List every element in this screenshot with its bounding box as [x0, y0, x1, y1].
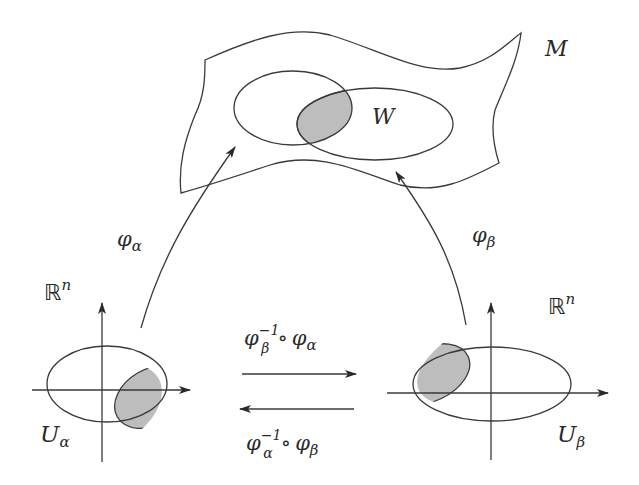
left-chart: ℝn Uα: [32, 276, 201, 462]
u-alpha-label: Uα: [40, 421, 70, 451]
phi-beta-label: φβ: [472, 223, 496, 251]
right-chart: ℝn Uβ: [381, 290, 608, 460]
phi-alpha-arrow: [141, 147, 235, 328]
left-overlap-image: [103, 353, 200, 441]
transition-backward-label: φ−1α∘φβ: [246, 427, 319, 461]
manifold-charts-diagram: W M φα φβ ℝn Uα ℝn Uβ φ−1: [0, 0, 639, 485]
transition-backward: φ−1α∘φβ: [240, 409, 354, 461]
overlap-label-w: W: [372, 104, 397, 129]
phi-beta-arrow: [396, 172, 466, 325]
left-rn-label: ℝn: [44, 276, 71, 305]
u-beta-label: Uβ: [557, 421, 585, 451]
transition-forward-label: φ−1β∘φα: [244, 322, 317, 356]
transition-forward: φ−1β∘φα: [242, 322, 356, 374]
phi-alpha-label: φα: [117, 227, 142, 255]
right-overlap-image: [381, 332, 480, 416]
right-rn-label: ℝn: [548, 290, 575, 319]
manifold-label-m: M: [544, 36, 568, 61]
